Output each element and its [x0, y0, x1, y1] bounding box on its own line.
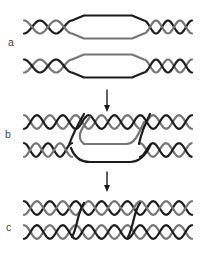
displaced-loop-outer: [71, 144, 151, 162]
down-arrow-icon: [104, 172, 110, 192]
panel-b: [24, 114, 192, 162]
dna-strand: [24, 201, 192, 215]
down-arrow-icon: [104, 90, 110, 112]
dna-strand: [24, 115, 192, 129]
dna-duplex-top: [24, 201, 192, 215]
panel-a-label: a: [8, 37, 14, 48]
dna-strand-exchange-diagram: a b c: [0, 0, 209, 254]
dna-duplex-top: [24, 115, 192, 129]
panel-c-label: c: [6, 222, 11, 233]
arrow-head: [104, 105, 110, 112]
dna-duplex-bottom-left: [24, 143, 72, 157]
arrow-head: [104, 185, 110, 192]
diagram-canvas: [0, 0, 209, 254]
dna-strand: [24, 143, 72, 157]
panel-a: [24, 16, 192, 78]
panel-b-label: b: [5, 129, 11, 140]
dna-strand: [24, 225, 192, 239]
dna-duplex-1: [24, 16, 192, 39]
dna-duplex-2: [24, 55, 192, 78]
panel-c: [24, 201, 192, 239]
dna-duplex-bottom: [24, 225, 192, 239]
